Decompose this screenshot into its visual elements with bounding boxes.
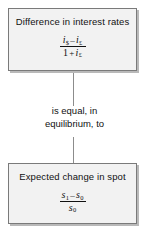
expected-spot-change-formula: s1–s0 s0 xyxy=(60,190,86,214)
denominator-subscript: £ xyxy=(78,51,82,58)
formula-denominator: 1+i£ xyxy=(61,47,84,58)
connector-line-lower xyxy=(73,137,74,163)
numerator-right-subscript: £ xyxy=(79,39,83,46)
parity-flow-diagram: Difference in interest rates i$–i£ 1+i£ … xyxy=(0,0,149,234)
spot-numerator-right-subscript: 0 xyxy=(80,194,84,201)
equilibrium-caption-line1: is equal, in xyxy=(0,105,149,118)
interest-rate-difference-formula: i$–i£ 1+i£ xyxy=(60,35,86,59)
spot-formula-numerator: s1–s0 xyxy=(60,190,86,201)
equilibrium-caption-line2: equilibrium, to xyxy=(0,118,149,131)
equilibrium-caption: is equal, in equilibrium, to xyxy=(0,105,149,131)
bottom-box-title: Expected change in spot xyxy=(19,171,125,182)
top-box-title: Difference in interest rates xyxy=(16,16,130,27)
formula-numerator: i$–i£ xyxy=(61,35,85,46)
numerator-operator: – xyxy=(69,35,76,45)
spot-formula-denominator: s0 xyxy=(67,202,78,213)
spot-numerator-left-variable: s xyxy=(62,189,66,200)
interest-rate-difference-box: Difference in interest rates i$–i£ 1+i£ xyxy=(8,8,137,71)
spot-numerator-operator: – xyxy=(69,190,76,200)
expected-spot-change-box: Expected change in spot s1–s0 s0 xyxy=(8,163,137,224)
denominator-operator: + xyxy=(68,48,75,58)
spot-denominator-subscript: 0 xyxy=(73,206,77,213)
connector-line-upper xyxy=(73,73,74,106)
